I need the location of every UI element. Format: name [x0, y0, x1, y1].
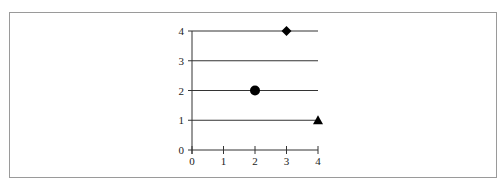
- x-tick-label: 3: [284, 155, 290, 167]
- y-tick-label: 0: [179, 144, 185, 156]
- y-tick-label: 2: [179, 85, 185, 97]
- diamond-marker: [282, 26, 292, 36]
- y-tick-label: 1: [179, 114, 185, 126]
- x-tick-label: 2: [252, 155, 258, 167]
- x-tick-label: 1: [221, 155, 227, 167]
- x-tick-label: 0: [189, 155, 195, 167]
- circle-marker: [250, 86, 260, 96]
- y-tick-label: 4: [179, 25, 185, 37]
- x-tick-label: 4: [315, 155, 321, 167]
- scatter-chart: 0123401234: [0, 0, 504, 185]
- y-tick-label: 3: [179, 55, 185, 67]
